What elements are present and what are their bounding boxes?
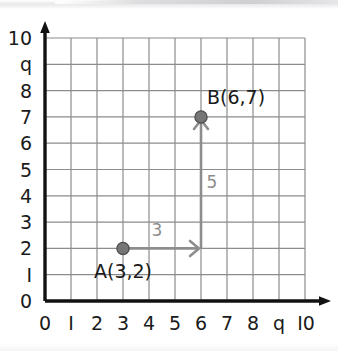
- y-tick-label: 5: [20, 159, 32, 181]
- x-tick-label: 6: [195, 312, 207, 334]
- x-tick-label: 8: [247, 312, 259, 334]
- horizontal-run-arrow: [123, 241, 199, 256]
- point-a-marker: [117, 242, 129, 254]
- y-axis-tick-labels: 10 q 8 7 6 5 4 3 2 I 0: [8, 27, 32, 312]
- y-tick-label: 8: [20, 80, 32, 102]
- point-b-label: B(6,7): [207, 86, 265, 108]
- x-tick-label: q: [273, 312, 285, 334]
- y-tick-label: 0: [20, 290, 32, 312]
- x-axis-arrowhead: [319, 296, 331, 306]
- coordinate-grid-figure: 10 q 8 7 6 5 4 3 2 I 0 0 I 2 3 4 5 6 7 8…: [0, 0, 338, 351]
- y-axis-arrowhead: [40, 21, 50, 33]
- coordinate-plane: 10 q 8 7 6 5 4 3 2 I 0 0 I 2 3 4 5 6 7 8…: [0, 0, 338, 351]
- y-tick-label: 10: [8, 27, 32, 49]
- x-tick-label: I: [68, 312, 74, 334]
- y-tick-label: q: [20, 53, 32, 75]
- y-tick-label: I: [26, 264, 32, 286]
- x-tick-label: 7: [221, 312, 233, 334]
- y-tick-label: 3: [20, 211, 32, 233]
- grid-lines: [45, 38, 305, 301]
- y-tick-label: 6: [20, 132, 32, 154]
- y-tick-label: 2: [20, 237, 32, 259]
- x-tick-label: I0: [297, 312, 315, 334]
- x-tick-label: 5: [169, 312, 181, 334]
- rise-length-label: 5: [207, 172, 218, 192]
- point-b-marker: [195, 111, 207, 123]
- y-tick-label: 4: [20, 185, 32, 207]
- y-tick-label: 7: [20, 106, 32, 128]
- point-a-label: A(3,2): [94, 260, 152, 282]
- run-length-label: 3: [152, 220, 163, 240]
- x-tick-label: 0: [39, 312, 51, 334]
- x-tick-label: 4: [143, 312, 155, 334]
- x-tick-label: 2: [91, 312, 103, 334]
- x-axis-tick-labels: 0 I 2 3 4 5 6 7 8 q I0: [39, 312, 315, 334]
- x-tick-label: 3: [117, 312, 129, 334]
